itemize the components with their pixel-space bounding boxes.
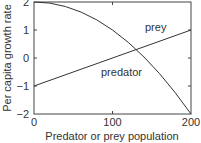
y-axis-label: Per capita growth rate	[1, 4, 13, 112]
x-tick-200: 200	[182, 116, 200, 128]
y-tick-1: 1	[23, 24, 29, 36]
prey-label: prey	[145, 21, 167, 33]
y-tick-0: 0	[23, 52, 29, 64]
y-tick-2: 2	[23, 0, 29, 8]
x-tick-100: 100	[103, 116, 121, 128]
y-tick-m2: −2	[16, 108, 29, 120]
x-axis-label: Predator or prey population	[45, 130, 178, 142]
x-tick-0: 0	[31, 116, 37, 128]
y-tick-m1: −1	[16, 80, 29, 92]
chart: prey predator 2 1 0 −1 −2 0 100 200 Pred…	[0, 0, 201, 143]
predator-label: predator	[101, 66, 142, 78]
